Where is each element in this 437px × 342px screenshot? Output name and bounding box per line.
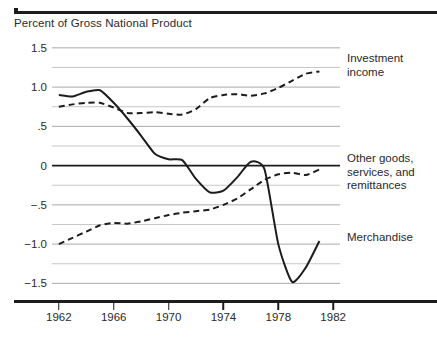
x-axis-line	[14, 300, 437, 303]
series-label-other-goods-line2: services, and	[347, 166, 415, 180]
series-label-merchandise-text: Merchandise	[347, 231, 413, 245]
x-tick-mark-3	[223, 303, 225, 310]
y-tick-label-1: 1.0	[0, 81, 47, 93]
y-tick-label-5: −1.0	[0, 238, 47, 250]
x-tick-label-5: 1982	[320, 311, 346, 323]
y-tick-label-2: .5	[0, 120, 47, 132]
plot-svg	[52, 40, 340, 303]
chart-figure: Percent of Gross National Product 1.51.0…	[0, 0, 437, 342]
series-label-other-goods: Other goods, services, and remittances	[347, 152, 415, 193]
x-tick-label-1: 1966	[101, 311, 127, 323]
series-line-1	[59, 170, 320, 245]
series-line-2	[59, 90, 320, 282]
plot-area	[52, 40, 340, 303]
y-tick-label-3: 0	[0, 160, 47, 172]
x-tick-mark-4	[278, 303, 280, 310]
y-tick-label-6: −1.5	[0, 277, 47, 289]
y-tick-label-0: 1.5	[0, 42, 47, 54]
series-label-other-goods-line1: Other goods,	[347, 152, 415, 166]
series-label-other-goods-line3: remittances	[347, 179, 415, 193]
x-tick-label-0: 1962	[46, 311, 72, 323]
x-tick-label-4: 1978	[265, 311, 291, 323]
series-label-merchandise: Merchandise	[347, 231, 413, 245]
top-rule	[14, 11, 437, 14]
series-label-investment-income-line1: Investment	[347, 52, 403, 66]
x-tick-label-2: 1970	[156, 311, 182, 323]
x-tick-mark-2	[168, 303, 170, 310]
x-tick-mark-5	[332, 303, 334, 310]
x-tick-mark-0	[58, 303, 60, 310]
x-tick-mark-1	[113, 303, 115, 310]
chart-axis-title: Percent of Gross National Product	[14, 17, 192, 29]
y-tick-label-4: −.5	[0, 199, 47, 211]
series-line-0	[59, 71, 320, 114]
series-label-investment-income: Investment income	[347, 52, 403, 79]
x-tick-label-3: 1974	[211, 311, 237, 323]
series-label-investment-income-line2: income	[347, 66, 403, 80]
series-lines	[59, 71, 320, 282]
